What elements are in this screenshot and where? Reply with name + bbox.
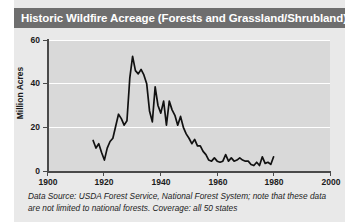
x-tick-label-2000: 2000	[311, 177, 350, 187]
x-tick-label-1940: 1940	[141, 177, 181, 187]
y-tick-label-0: 0	[0, 166, 40, 176]
x-tick-1920	[103, 172, 104, 176]
x-tick-1980	[273, 172, 274, 176]
x-tick-label-1920: 1920	[84, 177, 124, 187]
x-tick-2000	[330, 172, 331, 176]
chart-figure: Historic Wildfire Acreage (Forests and G…	[0, 0, 350, 222]
x-tick-1960	[217, 172, 218, 176]
x-tick-label-1960: 1960	[198, 177, 238, 187]
chart-caption: Data Source: USDA Forest Service, Nation…	[28, 190, 338, 214]
y-tick-label-60: 60	[0, 35, 40, 45]
x-tick-1900	[47, 172, 48, 176]
y-axis-title: Million Acres	[15, 53, 25, 133]
chart-title-bar: Historic Wildfire Acreage (Forests and G…	[14, 8, 345, 28]
x-tick-label-1900: 1900	[28, 177, 68, 187]
data-series-line	[48, 40, 330, 171]
chart-title: Historic Wildfire Acreage (Forests and G…	[14, 12, 347, 24]
x-tick-label-1980: 1980	[254, 177, 294, 187]
x-axis-spine	[47, 171, 331, 173]
x-tick-1940	[160, 172, 161, 176]
